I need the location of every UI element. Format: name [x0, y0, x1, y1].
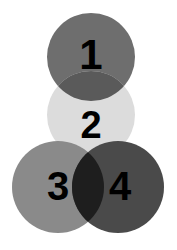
- circle-1-label: 1: [79, 31, 102, 78]
- circle-3-label: 3: [47, 164, 69, 208]
- circle-4-label: 4: [109, 164, 132, 208]
- diagram-canvas: 1 2 3 4: [0, 0, 177, 250]
- circle-2-label: 2: [80, 104, 101, 146]
- overlapping-circles-diagram: 1 2 3 4: [0, 0, 177, 250]
